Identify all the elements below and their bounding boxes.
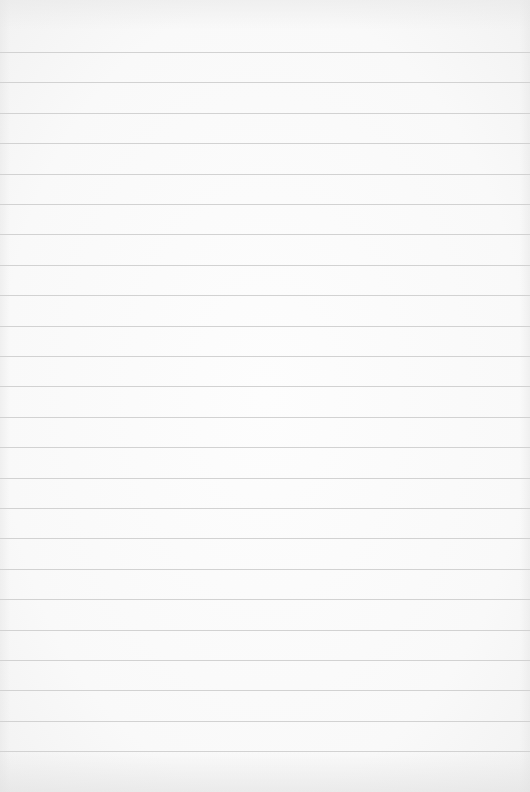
ruled-line (0, 52, 530, 53)
ruled-line (0, 508, 530, 509)
ruled-line (0, 660, 530, 661)
ruled-line (0, 204, 530, 205)
ruled-line (0, 265, 530, 266)
ruled-line (0, 751, 530, 752)
ruled-line (0, 599, 530, 600)
ruled-line (0, 478, 530, 479)
ruled-line (0, 174, 530, 175)
ruled-line (0, 326, 530, 327)
ruled-line (0, 143, 530, 144)
ruled-line (0, 569, 530, 570)
ruled-line (0, 630, 530, 631)
lined-paper-sheet (0, 0, 530, 792)
ruled-line (0, 690, 530, 691)
ruled-line (0, 538, 530, 539)
ruled-line (0, 447, 530, 448)
ruled-line (0, 721, 530, 722)
ruled-line (0, 295, 530, 296)
ruled-line (0, 417, 530, 418)
ruled-line (0, 356, 530, 357)
ruled-line (0, 234, 530, 235)
ruled-line (0, 113, 530, 114)
ruled-line (0, 386, 530, 387)
ruled-line (0, 82, 530, 83)
